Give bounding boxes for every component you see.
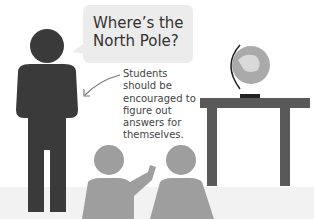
illustration-figures — [0, 0, 314, 219]
table-icon — [200, 98, 310, 186]
student-right-icon — [150, 145, 214, 219]
bubble-tail — [72, 44, 86, 54]
globe-icon — [231, 45, 270, 98]
teacher-figure-icon — [16, 29, 78, 212]
student-left-icon — [82, 145, 156, 219]
arrow-icon — [85, 75, 120, 95]
